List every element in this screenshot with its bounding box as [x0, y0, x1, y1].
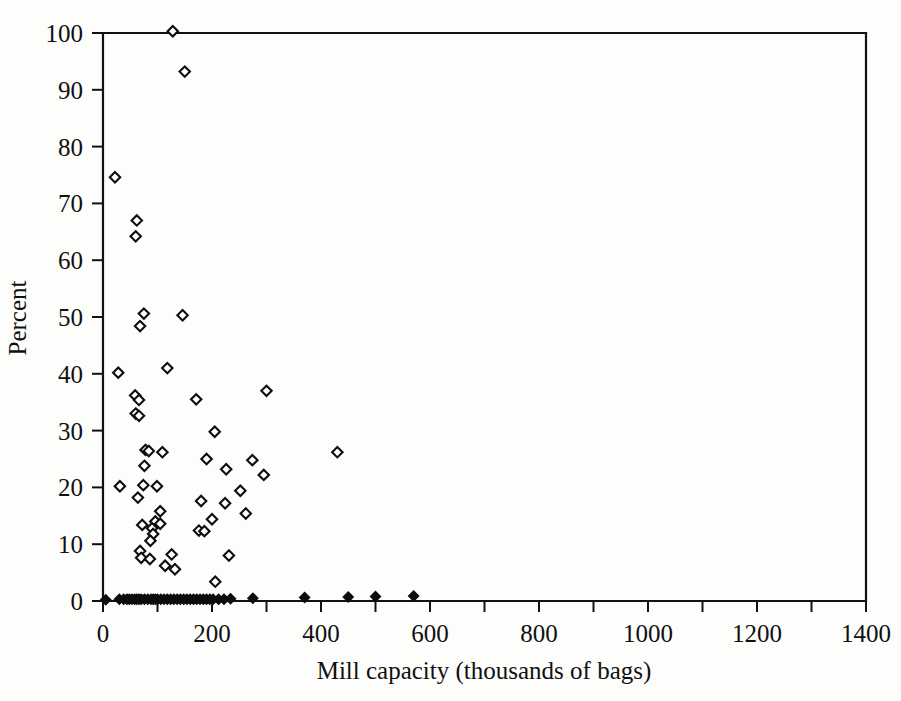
data-point [162, 363, 172, 373]
x-tick-label-800: 800 [520, 620, 558, 647]
data-point [177, 310, 187, 320]
y-axis-tick-labels: 0102030405060708090100 [46, 20, 84, 615]
data-point [224, 550, 234, 560]
y-tick-label-80: 80 [58, 134, 83, 161]
y-tick-label-40: 40 [58, 361, 83, 388]
x-tick-label-0: 0 [97, 620, 110, 647]
data-point [235, 486, 245, 496]
y-tick-label-30: 30 [58, 418, 83, 445]
data-point [201, 454, 211, 464]
data-point [168, 26, 178, 36]
data-point [113, 367, 123, 377]
y-tick-label-100: 100 [46, 20, 84, 47]
data-point [207, 514, 217, 524]
data-point [221, 464, 231, 474]
data-point [196, 496, 206, 506]
data-point [131, 231, 141, 241]
data-point [259, 470, 269, 480]
data-point [132, 215, 142, 225]
data-point [110, 172, 120, 182]
data-point [157, 447, 167, 457]
data-point [261, 386, 271, 396]
y-axis-ticks [92, 33, 103, 601]
data-point [332, 447, 342, 457]
data-point [210, 427, 220, 437]
data-point [191, 394, 201, 404]
y-tick-label-70: 70 [58, 190, 83, 217]
y-tick-label-0: 0 [71, 588, 84, 615]
baseline-data-point [409, 591, 419, 601]
data-point [115, 481, 125, 491]
data-point [145, 554, 155, 564]
y-axis-title: Percent [4, 280, 31, 355]
data-point [220, 498, 230, 508]
baseline-point-markers [101, 591, 419, 605]
scatter-plot-figure: 0200400600800100012001400 01020304050607… [0, 0, 901, 701]
x-tick-label-1400: 1400 [841, 620, 891, 647]
y-tick-label-90: 90 [58, 77, 83, 104]
data-point [139, 308, 149, 318]
data-point [155, 506, 165, 516]
data-point [180, 66, 190, 76]
data-point [135, 321, 145, 331]
x-tick-label-600: 600 [411, 620, 449, 647]
x-tick-label-1000: 1000 [623, 620, 673, 647]
data-point [210, 576, 220, 586]
data-point-markers [110, 26, 343, 587]
data-point [247, 455, 257, 465]
y-tick-label-50: 50 [58, 304, 83, 331]
y-tick-label-20: 20 [58, 474, 83, 501]
x-tick-label-400: 400 [302, 620, 340, 647]
data-point [166, 549, 176, 559]
data-point [152, 481, 162, 491]
plot-frame [103, 33, 866, 601]
axis-frame-path [103, 33, 866, 601]
y-tick-label-10: 10 [58, 531, 83, 558]
data-point [139, 461, 149, 471]
x-tick-label-1200: 1200 [732, 620, 782, 647]
y-tick-label-60: 60 [58, 247, 83, 274]
chart-canvas: 0200400600800100012001400 01020304050607… [0, 0, 901, 701]
data-point [241, 508, 251, 518]
x-axis-title: Mill capacity (thousands of bags) [317, 657, 652, 685]
x-axis-tick-labels: 0200400600800100012001400 [97, 620, 891, 647]
data-point [138, 480, 148, 490]
data-point [133, 492, 143, 502]
x-tick-label-200: 200 [193, 620, 231, 647]
